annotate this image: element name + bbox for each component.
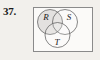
set-r-label: R	[42, 12, 49, 22]
venn-diagram: R S T	[0, 0, 100, 60]
figure-container: 37. R S T	[0, 0, 100, 60]
set-s-label: S	[67, 12, 72, 22]
